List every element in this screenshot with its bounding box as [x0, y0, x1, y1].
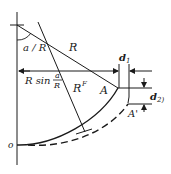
label-radius-f: R — [72, 82, 81, 95]
label-d1: d — [119, 52, 126, 63]
label-point-a: A — [99, 84, 108, 97]
label-radius-f-sup: F — [81, 80, 88, 88]
label-d2-sub: 2) — [156, 96, 164, 104]
dashed-arc — [28, 104, 128, 145]
label-projection: R sin — [24, 75, 50, 86]
diagram-canvas: a / R R R sin a R R F A A' d 1 d 2) o — [0, 0, 171, 174]
a-to-aprime-link — [128, 97, 129, 103]
label-d1-sub: 1 — [126, 57, 130, 65]
label-angle: a / R — [23, 42, 47, 53]
label-fraction-den: R — [53, 81, 60, 90]
angle-arc — [17, 33, 31, 40]
label-origin: o — [8, 140, 14, 150]
label-fraction-num: a — [55, 71, 60, 80]
label-point-a-prime: A' — [127, 108, 138, 119]
label-radius: R — [68, 41, 77, 54]
label-d2: d — [150, 91, 157, 102]
